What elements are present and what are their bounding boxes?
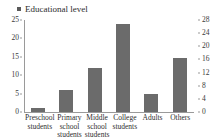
y-axis-left-tick-mark [20, 38, 22, 39]
x-axis-labels: Preschool studentsPrimary school student… [24, 114, 194, 140]
legend-label: Educational level [25, 5, 88, 14]
y-axis-right-tick-mark [198, 33, 200, 34]
x-axis-tick-label: Others [166, 114, 194, 123]
y-axis-left-tick-label: 10 [12, 71, 20, 79]
y-axis-right-tick-label: 12 [202, 69, 210, 77]
bar-chart: Educational level 2520151050 28242016128… [0, 0, 221, 140]
bar [88, 68, 102, 112]
bar-slot [166, 20, 194, 112]
y-axis-right-tick-mark [198, 85, 200, 86]
y-axis-left-tick-label: 20 [12, 34, 20, 42]
y-axis-right-tick-label: 20 [202, 42, 210, 50]
y-axis-right-tick-mark [198, 20, 200, 21]
x-axis-tick-label: Middle school students [83, 114, 111, 140]
bar-slot [24, 20, 52, 112]
x-axis-tick-label: Adults [139, 114, 167, 123]
bar-slot [109, 20, 137, 112]
y-axis-left-tick-mark [20, 93, 22, 94]
bar [173, 58, 187, 112]
y-axis-left-tick-label: 15 [12, 53, 20, 61]
y-axis-left-tick-mark [20, 75, 22, 76]
y-axis-left: 2520151050 [2, 20, 22, 112]
bar-series [24, 20, 194, 112]
y-axis-right-tick-label: 4 [202, 95, 206, 103]
y-axis-right-tick-label: 28 [202, 16, 210, 24]
bar-slot [81, 20, 109, 112]
bar [31, 108, 45, 112]
y-axis-left-tick-mark [20, 112, 22, 113]
y-axis-right: 2824201612840 [198, 20, 220, 112]
y-axis-right-tick-mark [198, 98, 200, 99]
bar-slot [52, 20, 80, 112]
y-axis-right-tick-mark [198, 112, 200, 113]
y-axis-right-tick-label: 24 [202, 29, 210, 37]
x-axis-tick-label: Preschool students [24, 114, 56, 131]
y-axis-right-tick-mark [198, 59, 200, 60]
y-axis-left-tick-mark [20, 20, 22, 21]
x-axis-tick-label: College students [111, 114, 139, 131]
square-marker-icon [17, 7, 21, 11]
bar [144, 94, 158, 112]
y-axis-right-tick-label: 8 [202, 82, 206, 90]
y-axis-left-tick-label: 25 [12, 16, 20, 24]
y-axis-left-tick-label: 0 [15, 108, 19, 116]
chart-legend: Educational level [17, 3, 88, 15]
y-axis-right-tick-mark [198, 72, 200, 73]
bar [59, 90, 73, 112]
y-axis-right-tick-mark [198, 46, 200, 47]
y-axis-left-tick-label: 5 [15, 90, 19, 98]
y-axis-left-tick-mark [20, 56, 22, 57]
y-axis-right-tick-label: 16 [202, 55, 210, 63]
x-axis-tick-label: Primary school students [56, 114, 84, 140]
y-axis-right-tick-label: 0 [202, 108, 206, 116]
bar [116, 24, 130, 112]
bar-slot [137, 20, 165, 112]
